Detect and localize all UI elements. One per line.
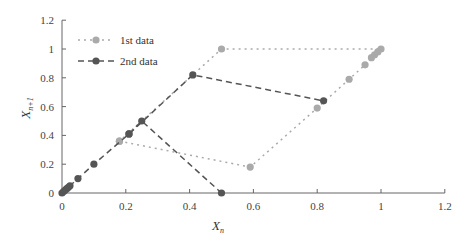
data-point: [247, 163, 254, 170]
y-tick-label: 0.2: [40, 158, 54, 170]
series-line-0: [119, 49, 381, 167]
series-line-2: [129, 121, 222, 193]
y-tick-label: 1: [49, 43, 55, 55]
chart: 00.20.40.60.811.200.20.40.60.811.2 1st d…: [0, 0, 474, 244]
y-tick-label: 0.4: [40, 129, 54, 141]
data-point: [90, 161, 97, 168]
data-point: [377, 45, 384, 52]
x-tick-label: 0.4: [183, 200, 197, 212]
y-tick-label: 0: [49, 187, 55, 199]
data-point: [74, 175, 81, 182]
data-point: [218, 189, 225, 196]
x-tick-label: 0.6: [247, 200, 261, 212]
x-tick-label: 1: [378, 200, 384, 212]
axes: 00.20.40.60.811.200.20.40.60.811.2: [40, 14, 451, 212]
data-point: [314, 104, 321, 111]
legend-marker: [92, 57, 99, 64]
y-tick-label: 1.2: [40, 14, 54, 26]
y-tick-label: 0.8: [40, 72, 54, 84]
data-point: [66, 182, 73, 189]
series-layer: [58, 45, 384, 196]
data-point: [125, 130, 132, 137]
x-tick-label: 0: [59, 200, 65, 212]
data-point: [346, 76, 353, 83]
y-axis-title: Xn+1: [18, 97, 35, 119]
legend: 1st data2nd data: [78, 34, 158, 67]
legend-marker: [92, 36, 99, 43]
y-tick-label: 0.6: [40, 101, 54, 113]
data-point: [138, 117, 145, 124]
data-point: [189, 71, 196, 78]
x-axis-title: Xn: [211, 218, 224, 235]
data-point: [320, 97, 327, 104]
legend-label: 2nd data: [120, 55, 158, 67]
x-tick-label: 0.2: [119, 200, 133, 212]
data-point: [218, 45, 225, 52]
data-point: [361, 61, 368, 68]
legend-label: 1st data: [120, 34, 154, 46]
x-tick-label: 0.8: [310, 200, 324, 212]
series-line-1: [62, 75, 324, 193]
x-tick-label: 1.2: [438, 200, 452, 212]
